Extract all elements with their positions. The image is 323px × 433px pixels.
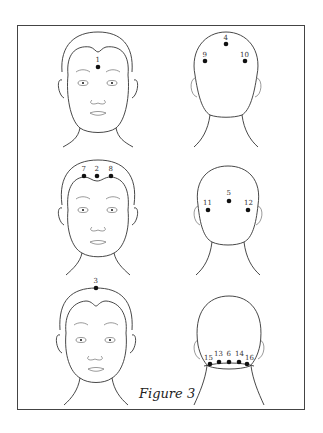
point-13: [217, 360, 222, 365]
front-head-3: [56, 288, 135, 405]
point-9: [203, 59, 208, 64]
svg-text:6: 6: [227, 350, 232, 358]
svg-text:5: 5: [227, 189, 231, 197]
svg-text:4: 4: [224, 34, 229, 42]
svg-text:14: 14: [235, 350, 244, 358]
point-3: [94, 286, 99, 291]
point-16: [245, 362, 250, 367]
point-10: [243, 59, 248, 64]
figure-caption: Figure 3: [138, 386, 195, 401]
svg-text:3: 3: [94, 277, 98, 285]
back-head-2: [194, 166, 262, 275]
point-14: [237, 360, 242, 365]
svg-text:12: 12: [244, 199, 253, 207]
svg-text:13: 13: [214, 350, 223, 358]
svg-text:10: 10: [240, 51, 249, 59]
svg-text:1: 1: [96, 56, 100, 64]
svg-text:2: 2: [95, 165, 99, 173]
point-1: [96, 65, 101, 70]
point-7: [82, 174, 87, 179]
svg-text:9: 9: [203, 51, 207, 59]
point-4: [224, 42, 229, 47]
svg-text:11: 11: [203, 199, 212, 207]
point-2: [95, 174, 100, 179]
svg-text:8: 8: [109, 165, 113, 173]
head-diagram: 1 4 9 10 7 2 8 5 11 12 3 15 13 6 14 16 F…: [0, 0, 323, 433]
point-8: [109, 174, 114, 179]
svg-text:7: 7: [82, 165, 86, 173]
svg-text:16: 16: [245, 354, 254, 362]
point-5: [227, 199, 232, 204]
point-6: [227, 360, 232, 365]
point-15: [208, 362, 213, 367]
front-head-1: [58, 32, 137, 147]
svg-text:15: 15: [204, 354, 213, 362]
back-head-1: [191, 32, 261, 147]
point-11: [206, 208, 211, 213]
point-12: [246, 208, 251, 213]
